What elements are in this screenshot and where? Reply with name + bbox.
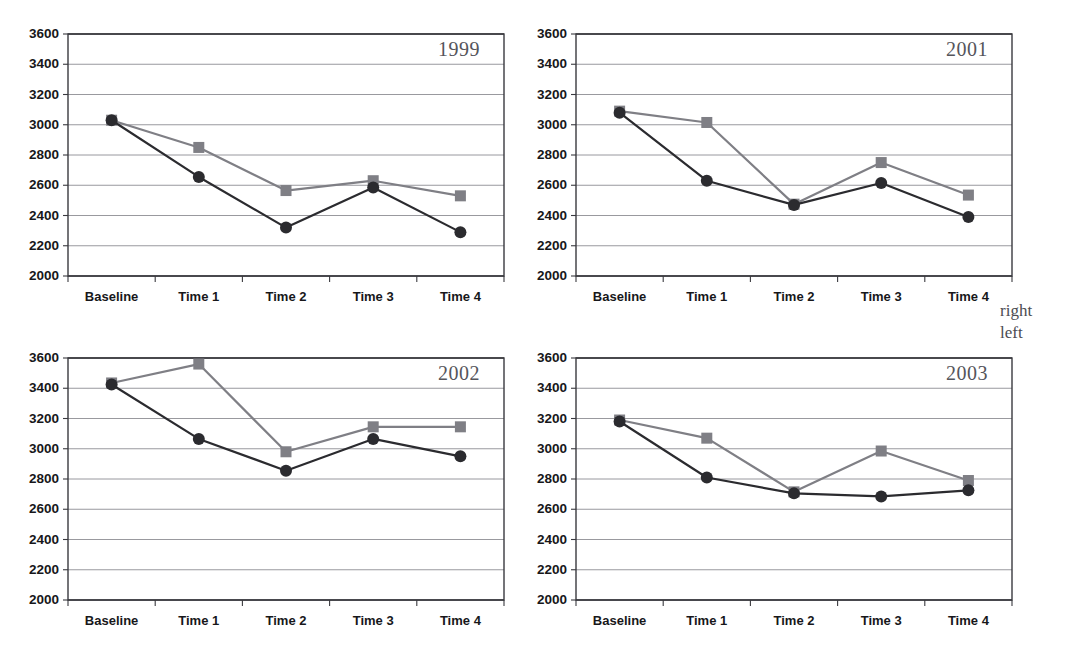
x-axis-tick-label: Time 4 bbox=[417, 614, 504, 627]
data-point-marker bbox=[280, 465, 292, 477]
data-point-marker bbox=[701, 175, 713, 187]
y-axis-tick-label: 3000 bbox=[520, 118, 567, 132]
data-point-marker bbox=[280, 222, 292, 234]
panel-title-year: 2001 bbox=[946, 38, 988, 61]
x-axis-ticks bbox=[576, 600, 1012, 606]
y-axis-tick-label: 2600 bbox=[12, 178, 59, 192]
gridlines bbox=[576, 34, 1012, 276]
x-axis-tick-label: Time 3 bbox=[838, 290, 925, 303]
data-point-marker bbox=[193, 433, 205, 445]
data-point-marker bbox=[788, 487, 800, 499]
data-point-marker bbox=[963, 190, 974, 201]
x-axis-tick-label: Time 4 bbox=[925, 290, 1012, 303]
y-axis-tick-label: 2000 bbox=[12, 269, 59, 283]
data-point-marker bbox=[454, 450, 466, 462]
x-axis-tick-label: Baseline bbox=[576, 614, 663, 627]
chart-panel-2002: 200022002400260028003000320034003600Base… bbox=[12, 350, 512, 640]
series-line bbox=[112, 120, 461, 196]
series-right bbox=[106, 359, 466, 458]
y-axis-tick-label: 2600 bbox=[520, 502, 567, 516]
data-point-marker bbox=[876, 157, 887, 168]
legend: right left bbox=[1000, 300, 1032, 345]
data-point-marker bbox=[106, 378, 118, 390]
data-point-marker bbox=[455, 421, 466, 432]
data-point-marker bbox=[454, 226, 466, 238]
x-axis-tick-label: Time 4 bbox=[417, 290, 504, 303]
y-axis-tick-label: 2600 bbox=[12, 502, 59, 516]
data-point-marker bbox=[368, 421, 379, 432]
data-point-marker bbox=[193, 142, 204, 153]
figure-multi-panel-line-charts: 200022002400260028003000320034003600Base… bbox=[0, 0, 1078, 656]
panel-title-year: 2003 bbox=[946, 362, 988, 385]
y-axis-tick-label: 3400 bbox=[520, 381, 567, 395]
y-axis-ticks bbox=[63, 34, 68, 276]
data-point-marker bbox=[962, 211, 974, 223]
y-axis-tick-label: 3400 bbox=[12, 381, 59, 395]
y-axis-tick-label: 2800 bbox=[12, 472, 59, 486]
y-axis-tick-label: 2400 bbox=[520, 533, 567, 547]
y-axis-tick-label: 2600 bbox=[520, 178, 567, 192]
y-axis-tick-label: 3600 bbox=[520, 351, 567, 365]
data-point-marker bbox=[281, 185, 292, 196]
data-point-marker bbox=[193, 171, 205, 183]
series-left bbox=[614, 416, 975, 503]
series-line bbox=[620, 422, 969, 497]
data-point-marker bbox=[106, 114, 118, 126]
data-point-marker bbox=[455, 190, 466, 201]
y-axis-tick-label: 3200 bbox=[520, 412, 567, 426]
gridlines bbox=[68, 34, 504, 276]
y-axis-tick-label: 2200 bbox=[12, 563, 59, 577]
plot-area bbox=[12, 350, 512, 640]
data-point-marker bbox=[281, 446, 292, 457]
y-axis-tick-label: 3000 bbox=[12, 442, 59, 456]
gridlines bbox=[68, 358, 504, 600]
y-axis-tick-label: 2000 bbox=[12, 593, 59, 607]
y-axis-ticks bbox=[571, 358, 576, 600]
x-axis-tick-label: Time 3 bbox=[330, 290, 417, 303]
data-point-marker bbox=[875, 490, 887, 502]
data-point-marker bbox=[701, 433, 712, 444]
legend-item-left: left bbox=[1000, 322, 1032, 344]
y-axis-tick-label: 3200 bbox=[12, 88, 59, 102]
chart-panel-2001: 200022002400260028003000320034003600Base… bbox=[520, 26, 1020, 316]
y-axis-tick-label: 2400 bbox=[12, 533, 59, 547]
y-axis-tick-label: 3400 bbox=[520, 57, 567, 71]
chart-panel-1999: 200022002400260028003000320034003600Base… bbox=[12, 26, 512, 316]
chart-panel-2003: 200022002400260028003000320034003600Base… bbox=[520, 350, 1020, 640]
series-right bbox=[106, 115, 466, 202]
x-axis-tick-label: Time 2 bbox=[750, 614, 837, 627]
data-point-marker bbox=[876, 446, 887, 457]
y-axis-ticks bbox=[571, 34, 576, 276]
data-point-marker bbox=[701, 117, 712, 128]
data-point-marker bbox=[367, 433, 379, 445]
x-axis-ticks bbox=[68, 600, 504, 606]
data-point-marker bbox=[701, 471, 713, 483]
series-line bbox=[112, 364, 461, 452]
panel-title-year: 1999 bbox=[438, 38, 480, 61]
plot-area bbox=[520, 26, 1020, 316]
x-axis-ticks bbox=[68, 276, 504, 282]
x-axis-tick-label: Time 3 bbox=[838, 614, 925, 627]
series-left bbox=[106, 114, 467, 238]
y-axis-tick-label: 3600 bbox=[12, 351, 59, 365]
y-axis-tick-label: 2000 bbox=[520, 269, 567, 283]
data-point-marker bbox=[193, 359, 204, 370]
panel-title-year: 2002 bbox=[438, 362, 480, 385]
x-axis-tick-label: Baseline bbox=[576, 290, 663, 303]
data-point-marker bbox=[614, 107, 626, 119]
y-axis-tick-label: 3200 bbox=[520, 88, 567, 102]
y-axis-tick-label: 3600 bbox=[12, 27, 59, 41]
data-point-marker bbox=[875, 177, 887, 189]
data-point-marker bbox=[962, 484, 974, 496]
x-axis-tick-label: Time 2 bbox=[242, 290, 329, 303]
x-axis-tick-label: Time 1 bbox=[663, 290, 750, 303]
y-axis-tick-label: 2800 bbox=[12, 148, 59, 162]
y-axis-tick-label: 2200 bbox=[12, 239, 59, 253]
y-axis-tick-label: 3000 bbox=[520, 442, 567, 456]
data-point-marker bbox=[367, 182, 379, 194]
y-axis-tick-label: 2400 bbox=[520, 209, 567, 223]
y-axis-tick-label: 2200 bbox=[520, 239, 567, 253]
y-axis-tick-label: 3600 bbox=[520, 27, 567, 41]
x-axis-tick-label: Time 2 bbox=[242, 614, 329, 627]
legend-label-right: right bbox=[1000, 301, 1032, 320]
